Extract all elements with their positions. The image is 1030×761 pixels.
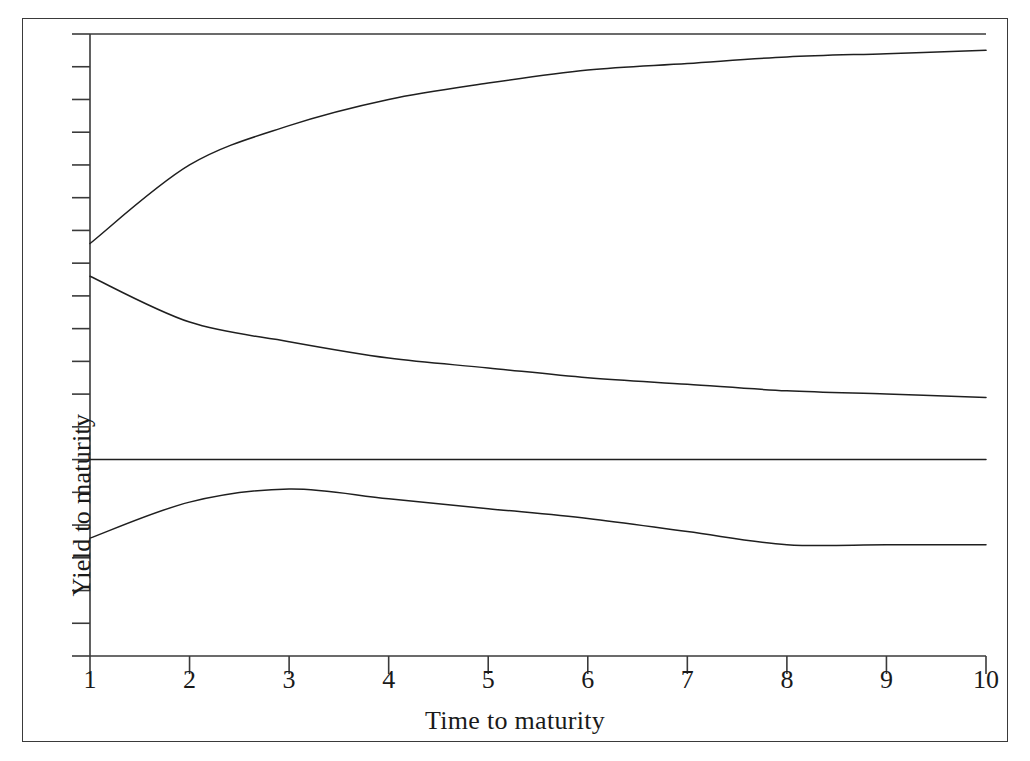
axes-group xyxy=(90,34,986,656)
x-axis-tick-label: 2 xyxy=(183,665,196,695)
x-axis-tick-label: 7 xyxy=(681,665,694,695)
x-axis-tick-label: 9 xyxy=(880,665,893,695)
curve-downward-sloping-yield-curve xyxy=(90,276,986,397)
x-axis-tick-label: 1 xyxy=(84,665,97,695)
x-axis-ticks xyxy=(90,656,986,674)
x-axis-tick-label: 4 xyxy=(382,665,395,695)
x-axis-tick-label: 5 xyxy=(482,665,495,695)
x-axis-tick-label: 6 xyxy=(581,665,594,695)
y-axis-label-wrapper: Yield to maturity xyxy=(22,190,62,510)
curve-upward-sloping-yield-curve xyxy=(90,50,986,243)
curve-group xyxy=(90,50,986,545)
chart-canvas xyxy=(0,0,1030,761)
x-axis-label: Time to maturity xyxy=(0,706,1030,736)
figure-root: Yield to maturity Time to maturity 12345… xyxy=(0,0,1030,761)
y-axis-label: Yield to maturity xyxy=(67,385,97,625)
x-axis-tick-label: 10 xyxy=(973,665,999,695)
curve-humped-yield-curve xyxy=(90,489,986,546)
x-axis-tick-label: 8 xyxy=(780,665,793,695)
x-axis-tick-label: 3 xyxy=(283,665,296,695)
